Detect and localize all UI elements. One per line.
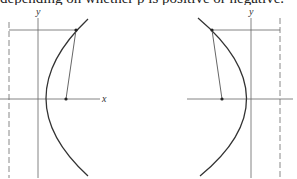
focal-segment-left bbox=[66, 30, 76, 99]
point-on-parabola-left bbox=[74, 28, 77, 31]
point-on-parabola-right bbox=[210, 28, 213, 31]
y-axis-label-right: y bbox=[248, 6, 254, 17]
parabola-curve-left bbox=[46, 19, 88, 176]
focus-point-right bbox=[220, 97, 223, 100]
y-axis-label-left: y bbox=[35, 6, 41, 17]
parabola-curve-right bbox=[198, 18, 247, 176]
figure-right: y bbox=[187, 6, 293, 178]
focus-point-left bbox=[64, 97, 67, 100]
x-axis-label-left: x bbox=[101, 93, 107, 104]
parabola-diagrams: x y y bbox=[0, 0, 297, 179]
figure-left: x y bbox=[0, 6, 107, 178]
